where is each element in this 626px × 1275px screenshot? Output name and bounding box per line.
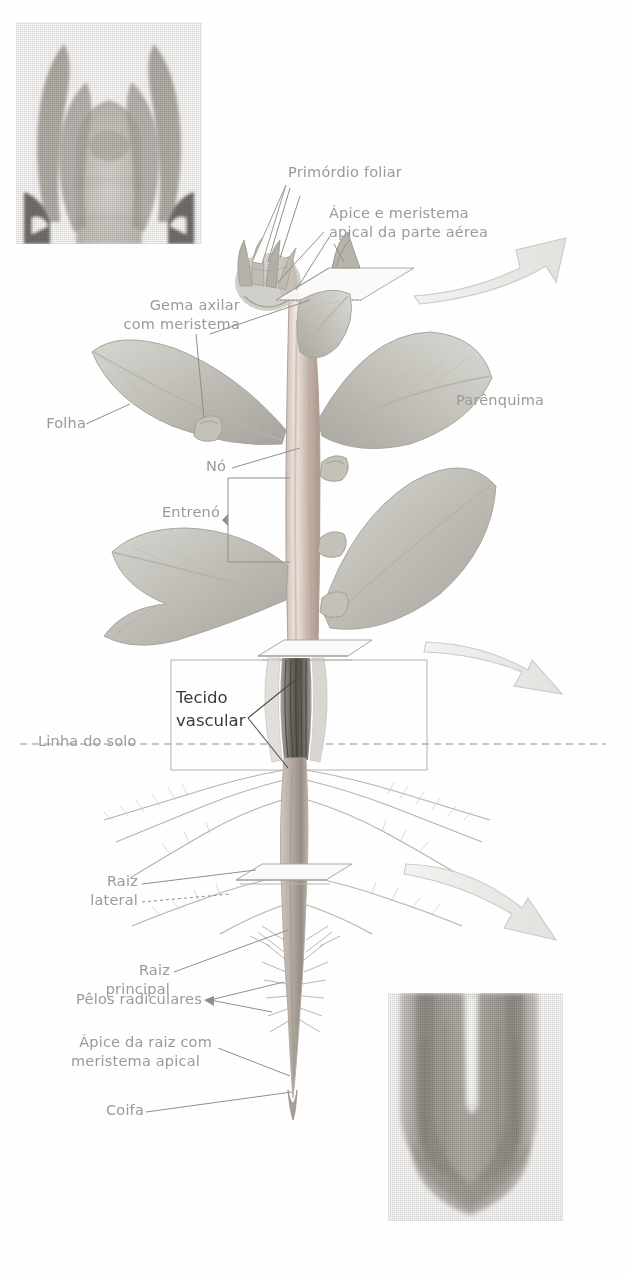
leader-folha — [86, 404, 130, 424]
leaf-left-upper — [92, 340, 286, 445]
label-linha-do-solo: Linha do solo — [38, 733, 137, 750]
leader-coifa — [146, 1092, 292, 1112]
leader-pelos-radiculares — [204, 982, 284, 1012]
label-entreno: Entrenó — [110, 504, 220, 521]
label-tecido-vascular-line1: Tecido — [176, 688, 228, 707]
cut-plane-stem-base — [258, 640, 372, 660]
axillary-bud-lower — [318, 532, 346, 558]
arrow-to-shoot-apex-micrograph — [414, 238, 566, 304]
leaf-upper-right — [297, 290, 352, 358]
arrow-to-root-tip-micrograph — [404, 864, 556, 940]
axillary-bud-lowest — [320, 592, 348, 618]
leader-apice-raiz — [218, 1048, 290, 1076]
label-apice-meristema-aerea-line2: apical da parte aérea — [329, 224, 488, 241]
label-folha: Folha — [0, 415, 86, 432]
label-apice-raiz-line1: Ápice da raiz com — [40, 1034, 212, 1051]
arrow-to-vascular-detail — [424, 642, 562, 694]
leaf-left-lower — [104, 528, 288, 645]
plant-illustration — [0, 0, 626, 1275]
label-raiz-principal-line1: Raiz — [60, 962, 170, 979]
label-tecido-vascular-line2: vascular — [176, 711, 245, 730]
label-apice-raiz-line2: meristema apical — [40, 1053, 200, 1070]
label-gema-axilar-line1: Gema axilar — [80, 297, 240, 314]
label-raiz-lateral-line2: lateral — [30, 892, 138, 909]
label-coifa: Coifa — [60, 1102, 144, 1119]
label-parenquima: Parênquima — [456, 392, 544, 409]
vascular-tissue-column — [265, 658, 327, 762]
label-raiz-lateral-line1: Raiz — [30, 873, 138, 890]
leaf-right-upper — [318, 332, 492, 449]
leader-raiz-lateral — [142, 870, 256, 902]
label-primordio-foliar: Primórdio foliar — [288, 164, 402, 181]
label-gema-axilar-line2: com meristema — [80, 316, 240, 333]
label-no: Nó — [140, 458, 226, 475]
axillary-bud-mid — [320, 456, 348, 482]
plant-anatomy-figure: Primórdio foliar Ápice e meristema apica… — [0, 0, 626, 1275]
label-pelos-radiculares: Pêlos radiculares — [36, 991, 202, 1008]
label-apice-meristema-aerea-line1: Ápice e meristema — [329, 205, 469, 222]
